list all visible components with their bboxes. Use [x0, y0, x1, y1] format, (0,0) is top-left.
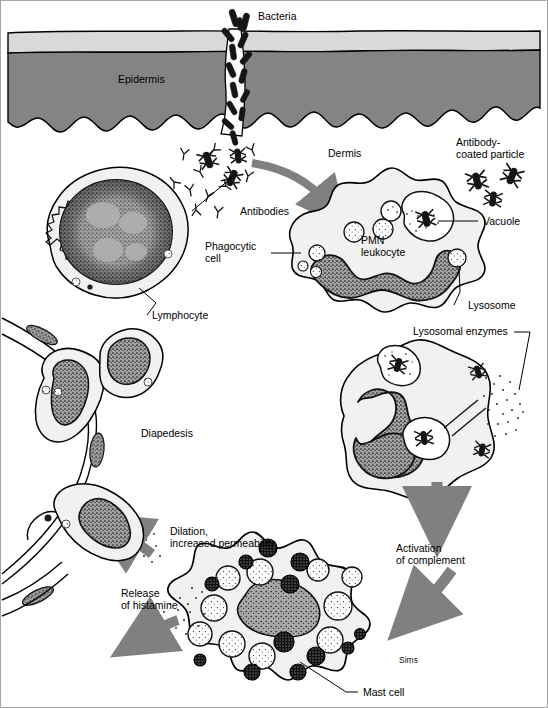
label-dilation-line1: Dilation, [170, 525, 208, 537]
label-mast-cell: Mast cell [363, 686, 404, 698]
label-antibody-coated-particle-line1: Antibody- [456, 136, 501, 148]
label-phagocytic-cell-line1: Phagocytic [205, 240, 256, 252]
label-activation-line1: Activation [396, 542, 442, 554]
label-pmn-leukocyte-line2: leukocyte [361, 246, 406, 258]
label-epidermis: Epidermis [118, 73, 165, 85]
label-phagocytic-cell-line2: cell [205, 252, 221, 264]
label-activation-line2: of complement [396, 554, 465, 566]
label-dilation-line2: increased permeability [170, 537, 276, 549]
label-bacteria: Bacteria [258, 10, 297, 22]
label-lymphocyte: Lymphocyte [152, 309, 208, 321]
diagram-canvas: Bacteria Epidermis Dermis Antibody- coat… [0, 0, 548, 708]
label-diapedesis: Diapedesis [141, 427, 193, 439]
label-dermis: Dermis [328, 147, 361, 159]
label-release-histamine-line2: of histamine [121, 599, 178, 611]
label-lysosome: Lysosome [468, 299, 516, 311]
label-antibody-coated-particle-line2: coated particle [456, 148, 524, 160]
label-release-histamine-line1: Release [121, 587, 160, 599]
label-vacuole: Vacuole [483, 215, 520, 227]
artist-signature: Sims [399, 655, 418, 665]
inflammation-diagram: Bacteria Epidermis Dermis Antibody- coat… [0, 0, 548, 708]
label-antibodies: Antibodies [240, 205, 289, 217]
label-lysosomal-enzymes: Lysosomal enzymes [413, 325, 508, 337]
label-pmn-leukocyte-line1: PMN [361, 234, 384, 246]
